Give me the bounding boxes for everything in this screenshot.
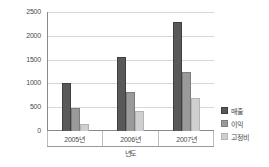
bar-group [103,12,158,131]
bar-groups [48,12,214,131]
bar[interactable] [62,83,71,131]
legend-swatch-icon [221,120,228,127]
bar-chart: 05001000150020002500 2005년2006년2007년 년도 … [0,0,269,167]
chart-legend: 매출이익고정비 [221,104,269,143]
y-axis-tick-label: 500 [1,103,41,110]
legend-label: 매출 [231,106,243,116]
y-axis-labels: 05001000150020002500 [0,0,45,167]
bar[interactable] [126,92,135,132]
x-axis-tick-label: 2006년 [102,131,158,146]
x-axis-tick-label: 2005년 [47,131,102,146]
legend-item[interactable]: 고정비 [221,130,269,143]
bar-group [48,12,103,131]
y-axis-tick-label: 2500 [1,8,41,15]
legend-swatch-icon [221,107,228,114]
x-axis-tick-label: 2007년 [158,131,214,146]
bar[interactable] [117,57,126,131]
legend-swatch-icon [221,133,228,140]
bar[interactable] [135,111,144,131]
bar[interactable] [191,98,200,131]
x-axis-title: 년도 [47,148,214,158]
y-axis-tick-label: 2000 [1,32,41,39]
x-axis-categories: 2005년2006년2007년 [47,131,214,147]
bar-group [159,12,214,131]
bar[interactable] [182,72,191,131]
legend-label: 고정비 [231,132,248,142]
y-axis-tick-label: 1500 [1,56,41,63]
bar[interactable] [71,108,80,131]
bar[interactable] [80,124,89,131]
legend-label: 이익 [231,119,243,129]
legend-item[interactable]: 이익 [221,117,269,130]
y-axis-tick-label: 0 [1,127,41,134]
bar[interactable] [173,22,182,131]
y-axis-tick-label: 1000 [1,79,41,86]
legend-item[interactable]: 매출 [221,104,269,117]
